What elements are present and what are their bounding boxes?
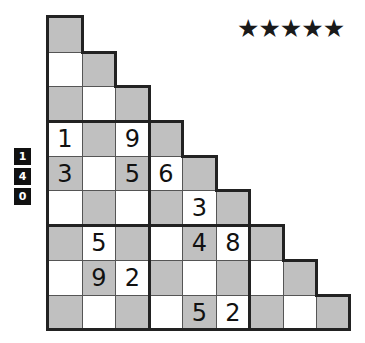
grid-cell-r4-c3[interactable]: 6 [149,156,183,191]
grid-cell-r6-c0[interactable] [47,225,83,261]
grid-border-line [46,15,84,18]
grid-cell-r8-c2[interactable] [115,295,150,330]
grid-border-line [46,328,351,331]
grid-cell-r6-c4[interactable]: 4 [182,225,217,261]
grid-cell-r1-c0[interactable] [47,52,83,87]
grid-cell-r7-c2[interactable]: 2 [115,260,150,296]
grid-border-line [46,16,49,330]
grid-cell-r6-c6[interactable] [249,225,284,261]
grid-cell-r7-c3[interactable] [149,260,183,296]
grid-cell-r6-c1[interactable]: 5 [82,225,116,261]
grid-cell-r8-c5[interactable]: 2 [216,295,250,330]
grid-cell-r8-c7[interactable] [283,295,317,330]
grid-cell-r7-c6[interactable] [249,260,284,296]
grid-border-line [215,155,218,192]
grid-border-line [81,15,84,54]
grid-border-line [46,120,183,123]
grid-border-line [215,189,251,192]
grid-cell-r7-c0[interactable] [47,260,83,296]
grid-cell-r6-c2[interactable] [115,225,150,261]
grid-cell-r8-c0[interactable] [47,295,83,330]
grid-border-line [148,120,151,329]
grid-cell-r2-c2[interactable] [115,86,150,122]
grid-cell-r4-c0[interactable]: 3 [47,156,83,191]
grid-cell-r5-c0[interactable] [47,190,83,226]
grid-cell-r2-c0[interactable] [47,86,83,122]
badge-1: 1 [14,148,31,165]
grid-cell-r3-c2[interactable]: 9 [115,121,150,157]
grid-cell-r4-c1[interactable] [82,156,116,191]
difficulty-stars: ★★★★★ [237,14,344,44]
grid-cell-r7-c1[interactable]: 9 [82,260,116,296]
badge-3: 0 [14,188,31,205]
grid-cell-r3-c0[interactable]: 1 [47,121,83,157]
grid-border-line [148,85,151,123]
grid-cell-r5-c2[interactable] [115,190,150,226]
grid-border-line [248,189,251,227]
grid-border-line [181,155,218,158]
grid-cell-r6-c3[interactable] [149,225,183,261]
grid-cell-r8-c6[interactable] [249,295,284,330]
grid-cell-r4-c2[interactable]: 5 [115,156,150,191]
grid-cell-r5-c1[interactable] [82,190,116,226]
grid-cell-r6-c5[interactable]: 8 [216,225,250,261]
grid-border-line [81,51,117,54]
grid-border-line [315,259,318,297]
grid-cell-r2-c1[interactable] [82,86,116,122]
grid-cell-r7-c7[interactable] [283,260,317,296]
grid-border-line [248,224,251,329]
grid-cell-r8-c4[interactable]: 5 [182,295,217,330]
grid-cell-r7-c5[interactable] [216,260,250,296]
grid-border-line [114,85,151,88]
grid-cell-r5-c4[interactable]: 3 [182,190,217,226]
grid-cell-r8-c3[interactable] [149,295,183,330]
grid-cell-r3-c3[interactable] [149,121,183,157]
badge-2: 4 [14,168,31,185]
grid-border-line [114,51,117,88]
grid-cell-r5-c3[interactable] [149,190,183,226]
side-badges: 1 4 0 [14,148,31,208]
grid-cell-r4-c4[interactable] [182,156,217,191]
grid-cell-r8-c8[interactable] [316,295,350,330]
grid-cell-r8-c1[interactable] [82,295,116,330]
grid-cell-r5-c5[interactable] [216,190,250,226]
grid-cell-r1-c1[interactable] [82,52,116,87]
grid-cell-r0-c0[interactable] [47,16,83,53]
grid-border-line [282,259,318,262]
grid-border-line [282,224,285,262]
grid-cell-r7-c4[interactable] [182,260,217,296]
grid-cell-r3-c1[interactable] [82,121,116,157]
grid-border-line [348,294,351,331]
grid-border-line [315,294,351,297]
grid-border-line [181,120,184,158]
